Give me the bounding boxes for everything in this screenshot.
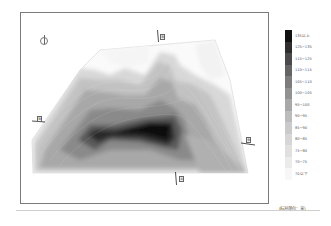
legend-label: 75~80 — [295, 149, 307, 153]
legend-label: 85~90 — [295, 126, 307, 130]
legend-swatch — [285, 145, 292, 157]
section-label-left: B — [37, 116, 42, 122]
legend-label: 110~115 — [295, 68, 312, 72]
legend-swatch — [285, 30, 292, 42]
legend-label: 115~125 — [295, 57, 312, 61]
north-arrow-icon — [44, 35, 45, 44]
legend-swatch — [285, 88, 292, 100]
legend-item: 95~100 — [285, 99, 325, 111]
legend-swatch — [285, 65, 292, 77]
section-label-top: B — [160, 34, 165, 40]
legend-item: 70以下 — [285, 168, 325, 180]
legend-label: 95~100 — [295, 103, 309, 107]
bottom-rule — [16, 210, 320, 211]
legend-swatch — [285, 76, 292, 88]
legend-label: 125~135 — [295, 45, 312, 49]
elevation-legend: 135以上 125~135 115~125 110~115 105~110 10… — [285, 30, 325, 180]
section-line-right — [241, 143, 255, 145]
legend-swatch — [285, 99, 292, 111]
legend-label: 70~75 — [295, 160, 307, 164]
section-label-bottom: A — [179, 176, 184, 182]
legend-swatch — [285, 157, 292, 169]
legend-item: 75~80 — [285, 145, 325, 157]
legend-item: 100~105 — [285, 88, 325, 100]
topographic-map — [0, 0, 331, 226]
legend-label: 80~85 — [295, 137, 307, 141]
section-label-right: B — [246, 137, 251, 143]
legend-label: 90~95 — [295, 114, 307, 118]
legend-swatch — [285, 122, 292, 134]
legend-label: 100~105 — [295, 91, 312, 95]
legend-label: 70以下 — [295, 171, 308, 176]
legend-swatch — [285, 168, 292, 180]
legend-item: 125~135 — [285, 42, 325, 54]
legend-item: 115~125 — [285, 53, 325, 65]
legend-item: 105~110 — [285, 76, 325, 88]
legend-item: 90~95 — [285, 111, 325, 123]
legend-swatch — [285, 53, 292, 65]
legend-swatch — [285, 134, 292, 146]
legend-label: 135以上 — [295, 33, 310, 38]
legend-item: 70~75 — [285, 157, 325, 169]
legend-item: 80~85 — [285, 134, 325, 146]
section-line-top — [158, 30, 159, 42]
legend-swatch — [285, 111, 292, 123]
legend-swatch — [285, 42, 292, 54]
legend-item: 110~115 — [285, 65, 325, 77]
section-line-bottom — [176, 172, 177, 185]
legend-item: 135以上 — [285, 30, 325, 42]
legend-item: 85~90 — [285, 122, 325, 134]
legend-label: 105~110 — [295, 80, 312, 84]
